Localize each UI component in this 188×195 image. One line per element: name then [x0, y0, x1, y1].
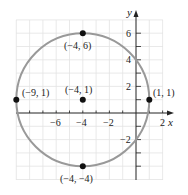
point-top	[80, 30, 86, 36]
x-tick-label: −4	[76, 117, 87, 128]
y-tick-label: 2	[126, 81, 131, 92]
point-left	[13, 97, 19, 103]
y-tick-label: −2	[120, 134, 131, 145]
y-axis-label: y	[126, 6, 132, 18]
point-label-bottom: (−4, −4)	[60, 173, 93, 185]
point-bottom	[80, 163, 86, 169]
point-label-right: (1, 1)	[153, 87, 175, 99]
point-label-center: (−4, 1)	[65, 84, 92, 96]
x-tick-label: 2	[160, 117, 165, 128]
x-tick-label: −2	[103, 117, 114, 128]
point-center	[80, 97, 86, 103]
point-label-top: (−4, 6)	[64, 40, 91, 52]
x-axis-arrow-icon	[167, 111, 174, 116]
point-right	[146, 97, 152, 103]
y-tick-label: 4	[126, 54, 131, 65]
x-axis-label: x	[167, 116, 173, 128]
x-tick-label: −6	[50, 117, 61, 128]
y-tick-label: 6	[126, 28, 131, 39]
point-label-left: (−9, 1)	[22, 87, 49, 99]
coordinate-plane: −6 −4 −2 2 x 6 4 2 −2 y (−4, 6) (−9, 1) …	[0, 0, 188, 195]
y-axis-arrow-icon	[134, 10, 139, 17]
